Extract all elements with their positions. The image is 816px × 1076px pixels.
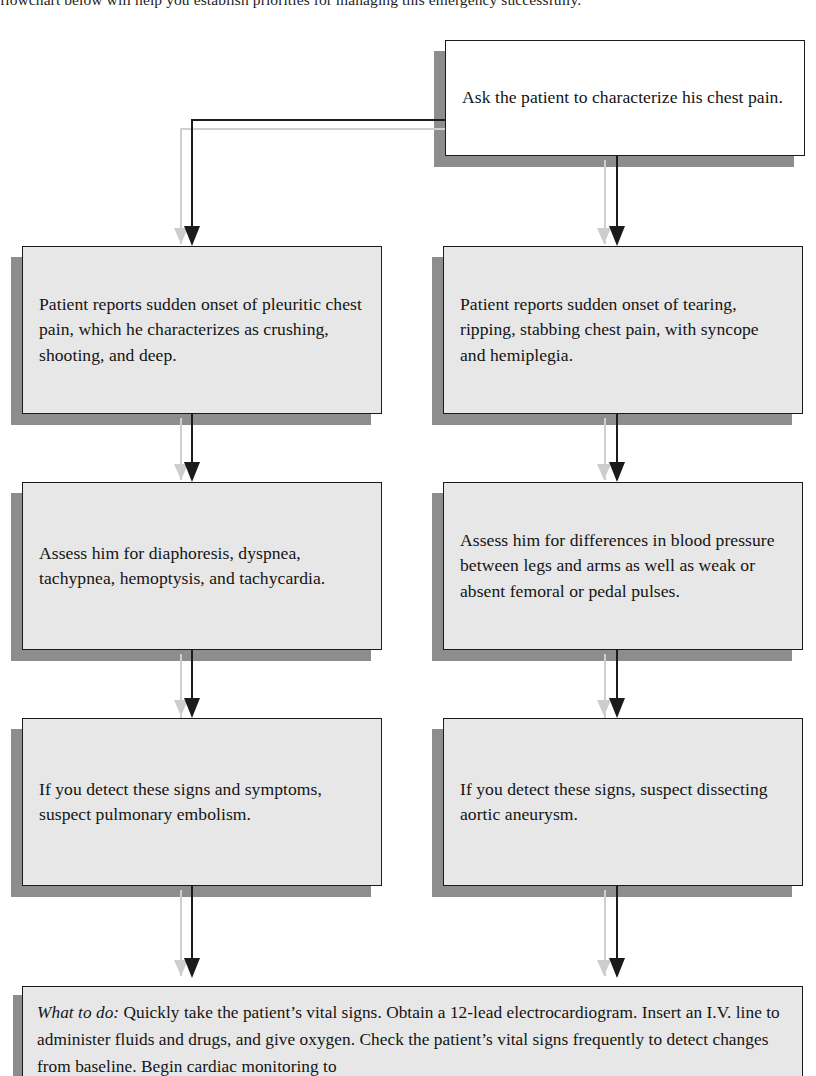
arrowhead-left-3-to-bottom [184,958,200,978]
ghost-line-root-left-v [180,128,182,244]
page-caption: flowchart below will help you establish … [0,0,816,9]
node-right-2: Assess him for differences in blood pres… [443,482,803,650]
arrowhead-right-2-to-right-3 [609,698,625,718]
node-root-face: Ask the patient to characterize his ches… [445,40,805,156]
node-right-1: Patient reports sudden onset of tearing,… [443,246,803,414]
node-right-1-face: Patient reports sudden onset of tearing,… [443,246,803,414]
node-left-3-face: If you detect these signs and symptoms, … [22,718,382,886]
node-root: Ask the patient to characterize his ches… [445,40,805,156]
connector-left-2-to-left-3 [191,650,193,704]
node-what-to-do-text: What to do: Quickly take the patient’s v… [23,999,802,1076]
arrowhead-root-to-left-1 [184,226,200,246]
arrowhead-right-3-to-bottom [609,958,625,978]
node-left-2-text: Assess him for diaphoresis, dyspnea, tac… [23,541,381,592]
arrowhead-root-to-right-1 [609,226,625,246]
connector-right-1-to-right-2 [616,414,618,466]
node-left-2: Assess him for diaphoresis, dyspnea, tac… [22,482,382,650]
node-right-3: If you detect these signs, suspect disse… [443,718,803,886]
node-left-1: Patient reports sudden onset of pleuriti… [22,246,382,414]
what-to-do-body: Quickly take the patient’s vital signs. … [37,1003,780,1076]
arrowhead-right-1-to-right-2 [609,462,625,482]
flowchart-canvas: flowchart below will help you establish … [0,0,816,1076]
what-to-do-label: What to do: [37,1003,119,1022]
connector-root-left-vertical [191,119,193,230]
arrowhead-left-2-to-left-3 [184,698,200,718]
node-left-2-face: Assess him for diaphoresis, dyspnea, tac… [22,482,382,650]
node-right-3-text: If you detect these signs, suspect disse… [444,777,802,828]
node-root-text: Ask the patient to characterize his ches… [446,85,799,111]
node-left-3-text: If you detect these signs and symptoms, … [23,777,381,828]
connector-left-3-to-bottom [191,886,193,962]
node-what-to-do: What to do: Quickly take the patient’s v… [22,986,803,1076]
node-right-2-face: Assess him for differences in blood pres… [443,482,803,650]
connector-root-left-horizontal [191,119,445,121]
node-right-3-face: If you detect these signs, suspect disse… [443,718,803,886]
ghost-line-root-left-h [180,128,445,130]
connector-right-2-to-right-3 [616,650,618,704]
arrowhead-left-1-to-left-2 [184,462,200,482]
node-what-to-do-face: What to do: Quickly take the patient’s v… [22,986,803,1076]
node-left-1-text: Patient reports sudden onset of pleuriti… [23,292,381,369]
connector-right-3-to-bottom [616,886,618,962]
node-right-1-text: Patient reports sudden onset of tearing,… [444,292,802,369]
node-left-1-face: Patient reports sudden onset of pleuriti… [22,246,382,414]
node-right-2-text: Assess him for differences in blood pres… [444,528,802,605]
node-left-3: If you detect these signs and symptoms, … [22,718,382,886]
connector-root-to-right-1 [616,156,618,230]
connector-left-1-to-left-2 [191,414,193,466]
